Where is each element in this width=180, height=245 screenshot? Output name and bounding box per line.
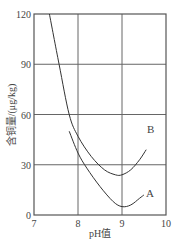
y-axis-label: 含铜量/(μg/kg): [5, 84, 18, 147]
x-tick-label: 7: [32, 218, 37, 229]
curve-a-label: A: [146, 187, 154, 199]
y-tick-label: 90: [21, 59, 31, 70]
grid-lines: [34, 14, 166, 215]
curve-b-label: B: [147, 123, 154, 135]
y-tick-label: 30: [21, 160, 31, 171]
chart: 78910 0306090120 pH值 含铜量/(μg/kg) B A: [0, 0, 180, 245]
x-tick-label: 10: [161, 218, 171, 229]
y-tick-label: 120: [16, 9, 31, 20]
y-axis-ticks: 0306090120: [16, 9, 31, 221]
y-tick-label: 0: [26, 210, 31, 221]
y-tick-label: 60: [21, 110, 31, 121]
x-tick-label: 8: [76, 218, 81, 229]
x-axis-label: pH值: [89, 227, 111, 239]
curve-a: [69, 131, 144, 207]
curves: [49, 14, 146, 207]
curve-b: [49, 14, 146, 175]
x-tick-label: 9: [120, 218, 125, 229]
